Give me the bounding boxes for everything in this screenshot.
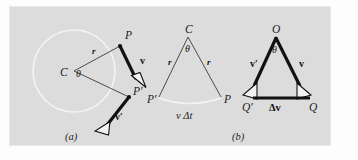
panel-a-velocity-v-label: v [140, 55, 145, 66]
panel-b-right-apex-label: O [272, 23, 281, 35]
panel-b-left-angle-label: θ [185, 43, 190, 54]
panel-b-right-velocity-v-prime-label: v′ [250, 58, 258, 69]
radius-leg-left [159, 37, 188, 97]
panel-b-right-velocity-v-label: v [299, 58, 304, 69]
caption-b: (b) [232, 131, 245, 143]
velocity-vector-v-shaft [120, 46, 136, 79]
delta-v-label: Δv [269, 102, 282, 113]
panel-a-point-p-label: P [124, 29, 132, 41]
panel-b-right-angle-label: θ [272, 44, 277, 55]
panel-a-angle-label: θ [76, 68, 81, 79]
panel-b-left-point-p-prime-label: P′ [146, 93, 157, 105]
panel-b-left-apex-label: C [185, 23, 193, 35]
point-q-prime-label: Q′ [242, 101, 253, 113]
panel-b-left-point-p-label: P [223, 93, 231, 105]
arc-p-prime-to-p [159, 98, 221, 104]
panel-b-left-radius-right-label: r [207, 57, 211, 67]
radius-leg-right [188, 37, 221, 97]
caption-a: (a) [65, 131, 78, 143]
figure-drawing: C θ r P P′ v v′ (a) C θ r [10, 7, 331, 146]
figure-frame: C θ r P P′ v v′ (a) C θ r [9, 6, 331, 146]
point-q-label: Q [309, 101, 318, 113]
panel-b-left-group: C θ r r P′ P v Δt [146, 23, 231, 121]
panel-b-left-radius-left-label: r [168, 57, 172, 67]
figure-container: C θ r P P′ v v′ (a) C θ r [0, 0, 358, 160]
panel-a-velocity-v-prime-label: v′ [115, 111, 123, 122]
panel-a-group: C θ r P P′ v v′ (a) [33, 29, 146, 143]
radius-line-cp-prime [74, 71, 129, 97]
point-o-marker [274, 36, 277, 39]
panel-a-radius-label: r [92, 46, 96, 56]
velocity-vector-v-prime-arrowhead [95, 122, 110, 136]
panel-a-point-p-prime-label: P′ [132, 85, 143, 97]
panel-a-center-label: C [60, 66, 68, 78]
arc-length-label: v Δt [176, 110, 193, 121]
velocity-vector-v-side-shaft [276, 38, 300, 86]
panel-b-right-group: O θ v′ v Q′ Q Δv (b) [232, 23, 318, 143]
